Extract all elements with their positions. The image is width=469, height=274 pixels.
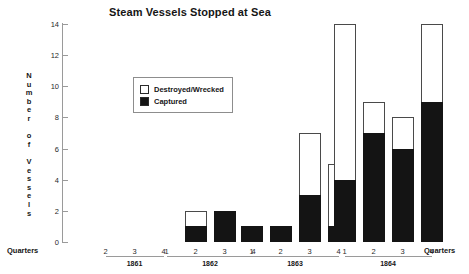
bar-stack	[334, 24, 356, 242]
plot-area: N u m b e r o f V e s s e l s 0246810121…	[0, 0, 469, 274]
y-axis-tick	[63, 117, 68, 118]
x-axis-group-label: 1864	[363, 260, 413, 267]
legend-swatch-destroyed-icon	[140, 85, 149, 94]
bar-segment-captured	[299, 195, 321, 242]
bar-segment-captured	[363, 133, 385, 242]
bar-segment-captured	[421, 102, 443, 242]
bar-segment-destroyed	[392, 117, 414, 148]
y-axis-tick	[63, 55, 68, 56]
bar-stack	[214, 211, 236, 242]
bar-stack	[241, 226, 263, 242]
legend-label-captured: Captured	[154, 97, 187, 106]
bar-segment-destroyed	[363, 102, 385, 133]
x-axis-tick-label: 2	[274, 247, 288, 256]
bar-segment-captured	[185, 226, 207, 242]
x-axis-tick-label: 1	[245, 247, 259, 256]
bar-segment-captured	[334, 180, 356, 242]
x-axis-tick-label: 2	[189, 247, 203, 256]
y-axis-tick	[63, 211, 68, 212]
bar-stack	[185, 211, 207, 242]
x-axis-tick-label: 2	[367, 247, 381, 256]
y-axis-tick	[63, 180, 68, 181]
legend-item-destroyed: Destroyed/Wrecked	[140, 83, 224, 95]
bar-segment-destroyed	[185, 211, 207, 227]
y-axis-tick	[63, 242, 68, 243]
x-axis-tick-label: 3	[396, 247, 410, 256]
y-axis-tick-label: 14	[41, 20, 59, 29]
y-axis-tick-label: 0	[41, 238, 59, 247]
x-axis-tick-label: 1	[160, 247, 174, 256]
y-axis-tick	[63, 24, 68, 25]
chart-container: Steam Vessels Stopped at Sea N u m b e r…	[0, 0, 469, 274]
y-axis-tick	[63, 86, 68, 87]
bar-segment-destroyed	[421, 24, 443, 102]
x-axis-tick-label: 2	[99, 247, 113, 256]
bar-segment-captured	[270, 226, 292, 242]
bar-segment-captured	[241, 226, 263, 242]
x-axis-tick-label: 3	[303, 247, 317, 256]
y-axis-tick-label: 4	[41, 176, 59, 185]
legend-swatch-captured-icon	[140, 97, 149, 106]
bar-stack	[363, 102, 385, 242]
y-axis-tick-label: 6	[41, 145, 59, 154]
legend-label-destroyed: Destroyed/Wrecked	[154, 85, 224, 94]
x-axis-group-label: 1861	[110, 260, 160, 267]
x-axis-tick-label: 1	[338, 247, 352, 256]
bar-stack	[421, 24, 443, 242]
x-axis-caption-right: Quarters	[424, 246, 455, 255]
bar-stack	[392, 117, 414, 242]
legend-item-captured: Captured	[140, 95, 224, 107]
x-axis-group-label: 1863	[270, 260, 320, 267]
y-axis-tick	[63, 149, 68, 150]
bar-segment-captured	[214, 211, 236, 242]
x-axis-caption-left: Quarters	[7, 246, 38, 255]
x-axis-tick-label: 3	[218, 247, 232, 256]
y-axis-tick-label: 2	[41, 207, 59, 216]
y-axis-title: N u m b e r o f V e s s e l s	[24, 72, 34, 218]
x-axis-group-line	[106, 256, 164, 257]
chart-legend: Destroyed/Wrecked Captured	[133, 77, 233, 113]
bar-segment-destroyed	[334, 24, 356, 180]
x-axis-group-line	[345, 256, 432, 257]
x-axis-group-line	[252, 256, 339, 257]
bar-stack	[270, 226, 292, 242]
x-axis-tick-label: 3	[128, 247, 142, 256]
y-axis-tick-label: 8	[41, 113, 59, 122]
bar-segment-captured	[392, 149, 414, 242]
x-axis-group-line	[167, 256, 254, 257]
y-axis-tick-label: 10	[41, 82, 59, 91]
x-axis-group-label: 1862	[185, 260, 235, 267]
bar-segment-destroyed	[299, 133, 321, 195]
y-axis-tick-label: 12	[41, 51, 59, 60]
bar-stack	[299, 133, 321, 242]
